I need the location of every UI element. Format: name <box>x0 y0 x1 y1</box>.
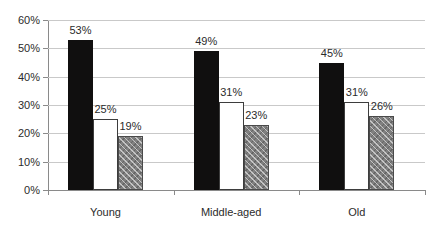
x-axis-category-label: Young <box>90 206 121 218</box>
plot-area: 53%25%19%49%31%23%45%31%26% <box>48 20 425 190</box>
bar <box>194 51 219 190</box>
y-axis-label: 10% <box>2 156 40 168</box>
bar <box>93 119 118 190</box>
bar <box>68 40 93 190</box>
bar-value-label: 23% <box>245 109 267 121</box>
y-axis-label: 40% <box>2 71 40 83</box>
bar <box>219 102 244 190</box>
bar-value-label: 31% <box>346 86 368 98</box>
y-axis-label: 30% <box>2 99 40 111</box>
y-axis-label: 60% <box>2 14 40 26</box>
bar <box>118 136 143 190</box>
bar-value-label: 26% <box>371 100 393 112</box>
gridline <box>48 48 425 49</box>
bar <box>344 102 369 190</box>
y-axis-label: 0% <box>2 184 40 196</box>
bar-value-label: 25% <box>94 103 116 115</box>
bar <box>244 125 269 190</box>
bar <box>369 116 394 190</box>
x-axis-tick <box>299 190 300 195</box>
bar-value-label: 19% <box>119 120 141 132</box>
x-axis-category-label: Middle-aged <box>201 206 262 218</box>
y-axis-label: 50% <box>2 42 40 54</box>
bar-value-label: 49% <box>195 35 217 47</box>
x-axis-tick <box>174 190 175 195</box>
bar-chart: 0%10%20%30%40%50%60% 53%25%19%49%31%23%4… <box>0 0 442 240</box>
bar <box>319 63 344 191</box>
bar-value-label: 45% <box>321 47 343 59</box>
bar-value-label: 31% <box>220 86 242 98</box>
x-axis-tick <box>425 190 426 195</box>
axis-baseline <box>48 190 425 191</box>
x-axis-category-label: Old <box>348 206 365 218</box>
x-axis-tick <box>48 190 49 195</box>
bar-value-label: 53% <box>69 24 91 36</box>
gridline <box>48 20 425 21</box>
y-axis-label: 20% <box>2 127 40 139</box>
gridline <box>48 77 425 78</box>
